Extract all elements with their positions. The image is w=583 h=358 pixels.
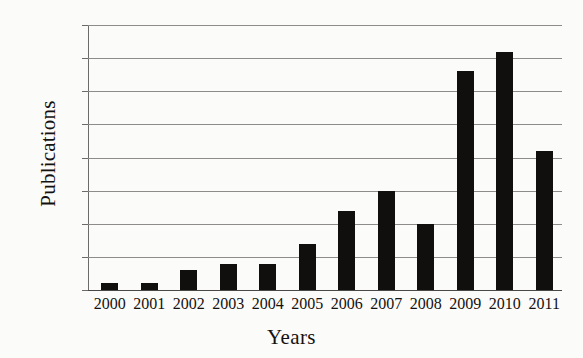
gridline-35 [88, 58, 562, 59]
bar-2007 [378, 191, 395, 290]
x-tick-label-2004: 2004 [246, 296, 290, 312]
x-tick-label-2007: 2007 [364, 296, 408, 312]
bar-chart-figure: Publications 0510152025303540 2000200120… [0, 0, 583, 358]
bar-2000 [101, 283, 118, 290]
x-tick-label-2010: 2010 [483, 296, 527, 312]
x-tick-label-2006: 2006 [325, 296, 369, 312]
x-axis-title: Years [0, 325, 583, 350]
gridline-15 [88, 191, 562, 192]
gridline-10 [88, 224, 562, 225]
gridline-0 [88, 290, 562, 291]
x-tick-label-2005: 2005 [285, 296, 329, 312]
gridline-5 [88, 257, 562, 258]
plot-area [88, 25, 562, 290]
bar-2010 [496, 52, 513, 291]
bar-2001 [141, 283, 158, 290]
x-tick-label-2002: 2002 [167, 296, 211, 312]
bar-2006 [338, 211, 355, 291]
x-tick-label-2001: 2001 [127, 296, 171, 312]
bar-2002 [180, 270, 197, 290]
gridline-40 [88, 25, 562, 26]
x-tick-label-2008: 2008 [404, 296, 448, 312]
gridline-25 [88, 124, 562, 125]
bar-2011 [536, 151, 553, 290]
x-tick-label-2011: 2011 [522, 296, 566, 312]
bar-2004 [259, 264, 276, 291]
bar-2009 [457, 71, 474, 290]
gridline-20 [88, 158, 562, 159]
x-tick-label-2000: 2000 [88, 296, 132, 312]
x-tick-label-2003: 2003 [206, 296, 250, 312]
gridline-30 [88, 91, 562, 92]
bar-2005 [299, 244, 316, 290]
bar-2008 [417, 224, 434, 290]
x-tick-label-2009: 2009 [443, 296, 487, 312]
bar-2003 [220, 264, 237, 291]
y-axis-title: Publications [36, 44, 61, 264]
